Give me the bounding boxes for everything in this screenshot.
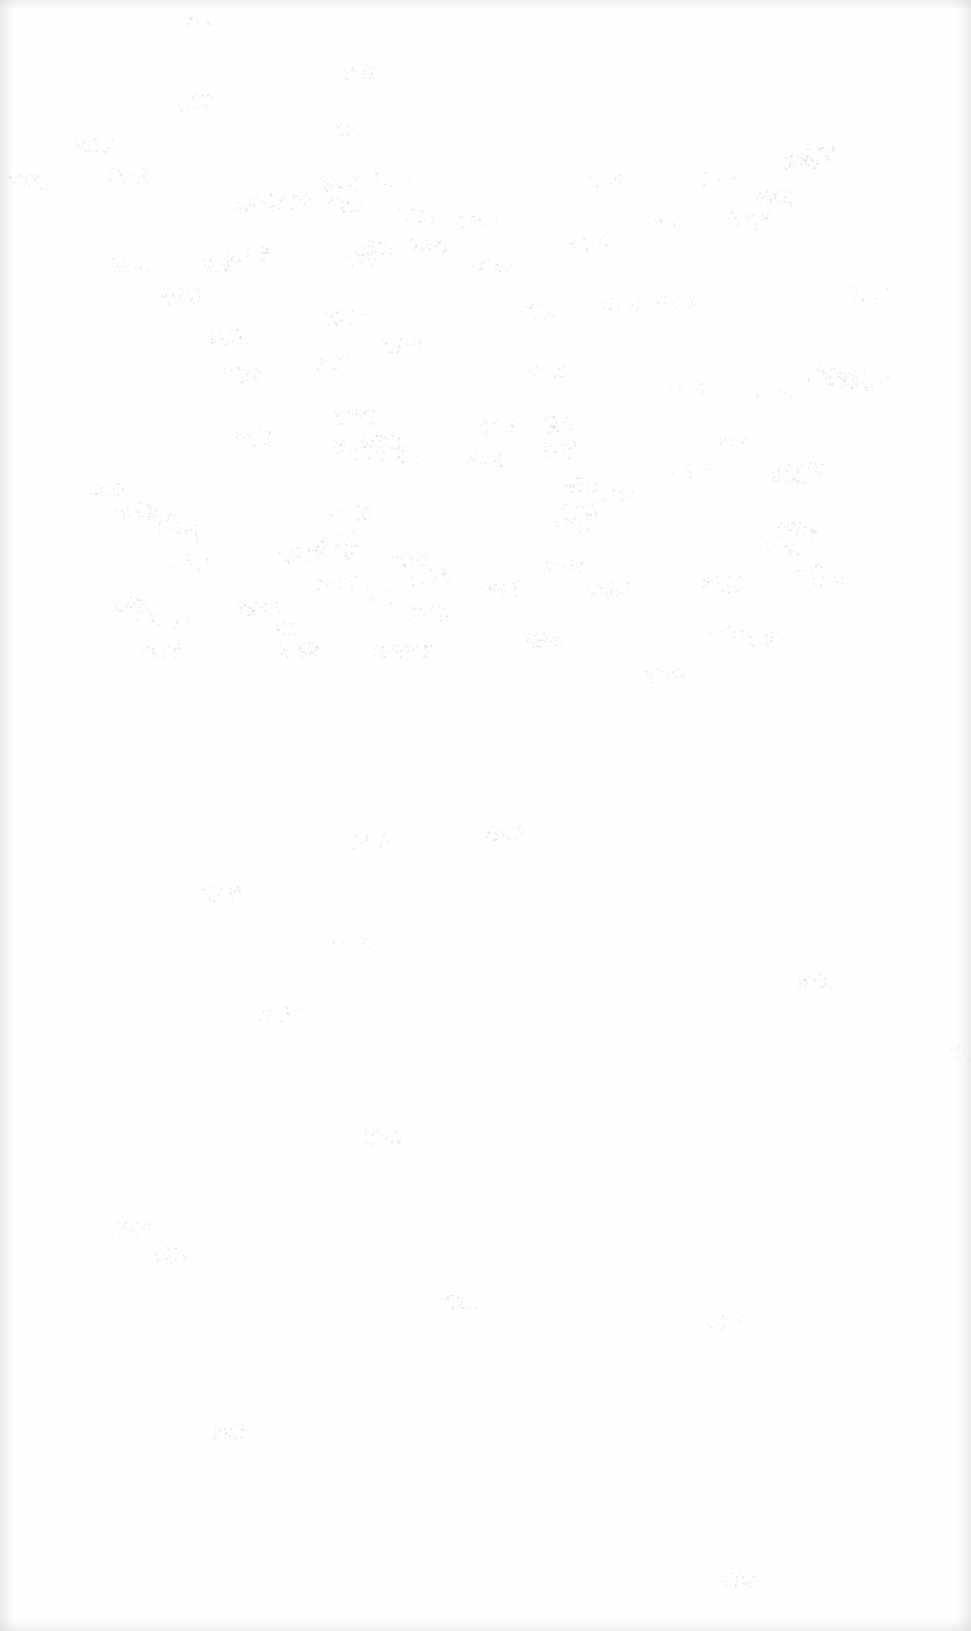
page-content (0, 0, 971, 1631)
blank-scanned-page (0, 0, 971, 1631)
